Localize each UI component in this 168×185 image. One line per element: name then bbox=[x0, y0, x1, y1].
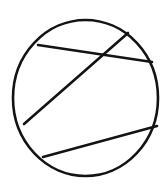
figure-background bbox=[0, 0, 168, 185]
geometry-figure: Circle with three chords bbox=[0, 0, 168, 185]
figure-canvas bbox=[0, 0, 168, 185]
